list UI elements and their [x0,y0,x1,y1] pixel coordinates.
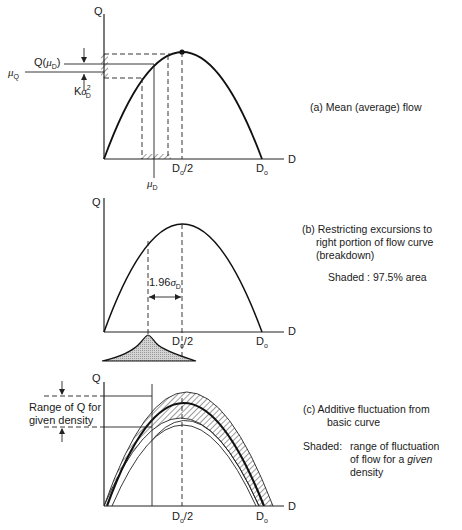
tick-end-b: Do [256,335,268,352]
label-q-mu-d: Q(μD) [34,56,61,73]
shaded-desc-c: range of fluctuation of flow for a given… [350,440,439,479]
panel-a [25,14,284,178]
d-axis-label-b: D [288,325,296,338]
caption-b: (b) Restricting excursions to right port… [302,223,433,284]
label-mu-d: μD [147,177,158,194]
range-label: Range of Q for given density [29,401,101,427]
caption-c: (c) Additive fluctuation from basic curv… [303,403,430,429]
label-interval: 1.96σD [149,276,181,293]
caption-a: (a) Mean (average) flow [310,101,421,114]
q-axis-label-c: Q [92,372,101,385]
d-axis-label-a: D [288,153,296,166]
flow-curve [104,52,262,159]
q-axis-label-a: Q [94,5,103,18]
q-hatch [101,54,108,78]
d-axis-label-c: D [288,500,296,513]
tick-half-b: Do/2 [172,335,193,352]
tick-end-a: Do [256,162,268,179]
shaded-label-c: Shaded: [303,440,342,453]
label-mu-q: μQ [8,66,19,83]
tick-half-c: Do/2 [172,510,193,527]
label-k-sigma: Kσ2D [74,81,91,102]
shaded-note: Shaded : 97.5% area [302,271,433,284]
tick-end-c: Do [256,510,268,527]
d-hatch [141,154,171,159]
q-axis-label-b: Q [92,196,101,209]
tick-half-a: Do/2 [172,162,193,179]
flow-curve [104,224,262,332]
